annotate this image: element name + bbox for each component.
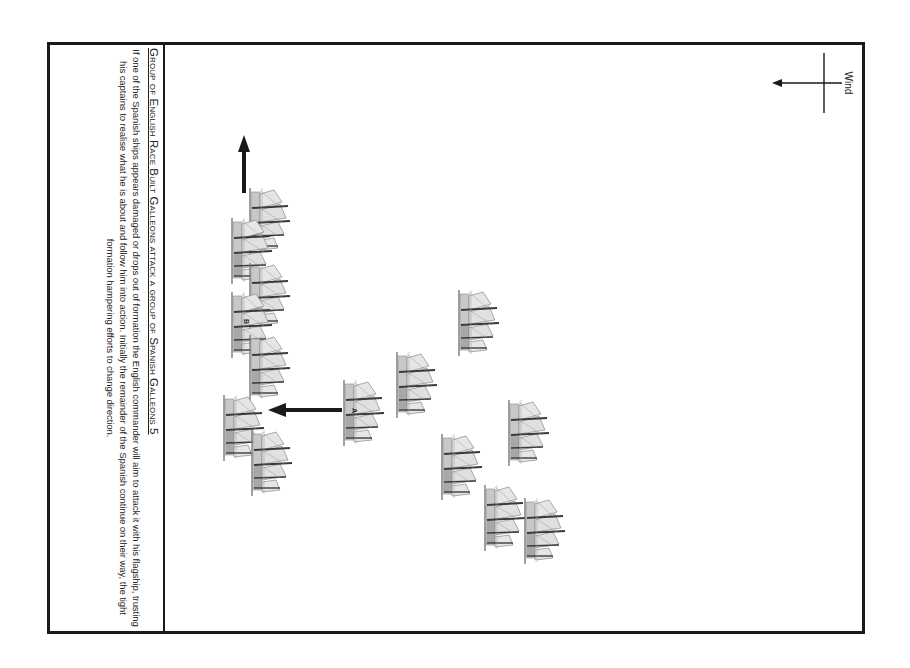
spanish-galleon-icon bbox=[459, 290, 499, 356]
battle-map bbox=[0, 0, 910, 668]
spanish-galleon-icon bbox=[397, 352, 437, 418]
wind-direction-arrow-icon bbox=[772, 53, 842, 113]
wind-label: Wind bbox=[843, 72, 854, 95]
spanish-target-galleon-icon bbox=[344, 380, 384, 446]
spanish-squadron bbox=[344, 290, 565, 564]
english-squadron bbox=[224, 188, 292, 496]
spanish-galleon-icon bbox=[525, 498, 565, 564]
ship-label-a: A bbox=[351, 408, 358, 413]
spanish-galleon-icon bbox=[442, 434, 482, 500]
english-galleon-icon bbox=[252, 430, 292, 496]
attack-arrow-icon bbox=[268, 403, 342, 417]
spanish-galleon-icon bbox=[485, 485, 525, 551]
spanish-galleon-icon bbox=[509, 400, 549, 466]
english-galleon-icon bbox=[250, 335, 290, 401]
english-heading-arrow-icon bbox=[238, 135, 250, 193]
ship-label-b: B bbox=[243, 319, 250, 324]
